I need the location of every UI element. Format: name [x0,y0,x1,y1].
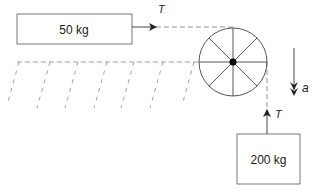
tension-vertical-arrow: T [267,108,283,134]
acceleration-label: a [302,81,309,95]
pulley-diagram: 50 kg T a T 200 kg [0,0,317,193]
tension-horizontal-label: T [158,3,166,15]
tension-horizontal-arrow: T [132,3,166,27]
pulley-hub [230,59,237,66]
table-surface [8,62,199,108]
rope [156,27,267,112]
tension-vertical-label: T [275,108,283,120]
pulley-wheel [199,28,267,96]
acceleration-arrow: a [290,48,309,96]
block-200kg-label: 200 kg [250,153,286,167]
block-200kg: 200 kg [237,134,300,184]
block-50kg: 50 kg [17,14,132,44]
block-50kg-label: 50 kg [59,23,88,37]
